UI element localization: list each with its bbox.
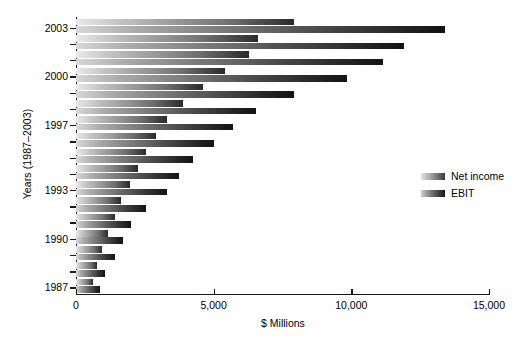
y-tick-label-1993: 1993 bbox=[28, 185, 68, 196]
bar-group-1996 bbox=[76, 132, 489, 148]
bar-group-1987 bbox=[76, 278, 489, 294]
x-tick-label-0: 0 bbox=[46, 299, 106, 311]
bar-net-income-1995 bbox=[76, 149, 146, 156]
bar-net-income-1991 bbox=[76, 214, 115, 221]
x-tick-10000 bbox=[351, 289, 352, 295]
bar-net-income-1987 bbox=[76, 279, 93, 286]
x-tick-label-15000: 15,000 bbox=[459, 299, 519, 311]
bar-net-income-1996 bbox=[76, 133, 156, 140]
bar-net-income-2002 bbox=[76, 35, 258, 42]
x-axis-line bbox=[76, 294, 490, 295]
bar-net-income-1994 bbox=[76, 165, 138, 172]
bar-net-income-2000 bbox=[76, 68, 225, 75]
bar-group-2001 bbox=[76, 50, 489, 66]
bar-group-1989 bbox=[76, 245, 489, 261]
bar-ebit-1987 bbox=[76, 286, 100, 293]
y-axis-title: Years (1987–2003) bbox=[21, 69, 33, 239]
legend-label-ebit: EBIT bbox=[451, 187, 474, 200]
bar-ebit-1993 bbox=[76, 189, 167, 196]
y-tick-label-1987: 1987 bbox=[28, 282, 68, 293]
bar-net-income-1989 bbox=[76, 246, 102, 253]
bar-ebit-2001 bbox=[76, 59, 383, 66]
bar-group-1992 bbox=[76, 197, 489, 213]
bar-group-1991 bbox=[76, 213, 489, 229]
legend-label-net: Net income bbox=[451, 170, 504, 183]
legend-swatch-net bbox=[421, 173, 445, 180]
bar-ebit-1992 bbox=[76, 205, 146, 212]
bar-group-1997 bbox=[76, 115, 489, 131]
bar-group-1998 bbox=[76, 99, 489, 115]
x-tick-label-5000: 5,000 bbox=[184, 299, 244, 311]
x-axis-title: $ Millions bbox=[76, 317, 490, 329]
y-tick-label-1997: 1997 bbox=[28, 120, 68, 131]
bar-chart: Years (1987–2003) 2003200019971993199019… bbox=[0, 0, 529, 342]
bar-ebit-2003 bbox=[76, 26, 445, 33]
bar-ebit-1994 bbox=[76, 173, 179, 180]
bar-net-income-1993 bbox=[76, 181, 130, 188]
y-tick-label-2003: 2003 bbox=[28, 23, 68, 34]
bar-net-income-1988 bbox=[76, 262, 97, 269]
y-tick-label-2000: 2000 bbox=[28, 71, 68, 82]
bar-group-2003 bbox=[76, 18, 489, 34]
bar-group-1995 bbox=[76, 148, 489, 164]
bar-group-2000 bbox=[76, 67, 489, 83]
y-tick-label-1990: 1990 bbox=[28, 234, 68, 245]
bar-ebit-1996 bbox=[76, 140, 214, 147]
bar-ebit-1990 bbox=[76, 237, 123, 244]
bar-net-income-1997 bbox=[76, 116, 167, 123]
bar-ebit-2002 bbox=[76, 43, 404, 50]
bar-ebit-1991 bbox=[76, 221, 131, 228]
x-tick-0 bbox=[76, 289, 77, 295]
bar-ebit-1999 bbox=[76, 91, 294, 98]
bar-net-income-2001 bbox=[76, 51, 249, 58]
bar-group-1990 bbox=[76, 229, 489, 245]
bar-net-income-1990 bbox=[76, 230, 108, 237]
bar-ebit-1997 bbox=[76, 124, 233, 131]
bar-net-income-1998 bbox=[76, 100, 183, 107]
bar-ebit-2000 bbox=[76, 75, 347, 82]
bar-ebit-1988 bbox=[76, 270, 105, 277]
plot-area bbox=[76, 18, 489, 294]
bar-ebit-1989 bbox=[76, 254, 115, 261]
bar-ebit-1998 bbox=[76, 108, 256, 115]
bar-net-income-2003 bbox=[76, 19, 294, 26]
x-tick-15000 bbox=[489, 289, 490, 295]
x-tick-label-10000: 10,000 bbox=[321, 299, 381, 311]
bar-group-1988 bbox=[76, 262, 489, 278]
bar-net-income-1992 bbox=[76, 197, 121, 204]
bar-group-1999 bbox=[76, 83, 489, 99]
bar-ebit-1995 bbox=[76, 156, 193, 163]
x-tick-5000 bbox=[214, 289, 215, 295]
bar-group-2002 bbox=[76, 34, 489, 50]
legend-swatch-ebit bbox=[421, 190, 445, 197]
bar-net-income-1999 bbox=[76, 84, 203, 91]
